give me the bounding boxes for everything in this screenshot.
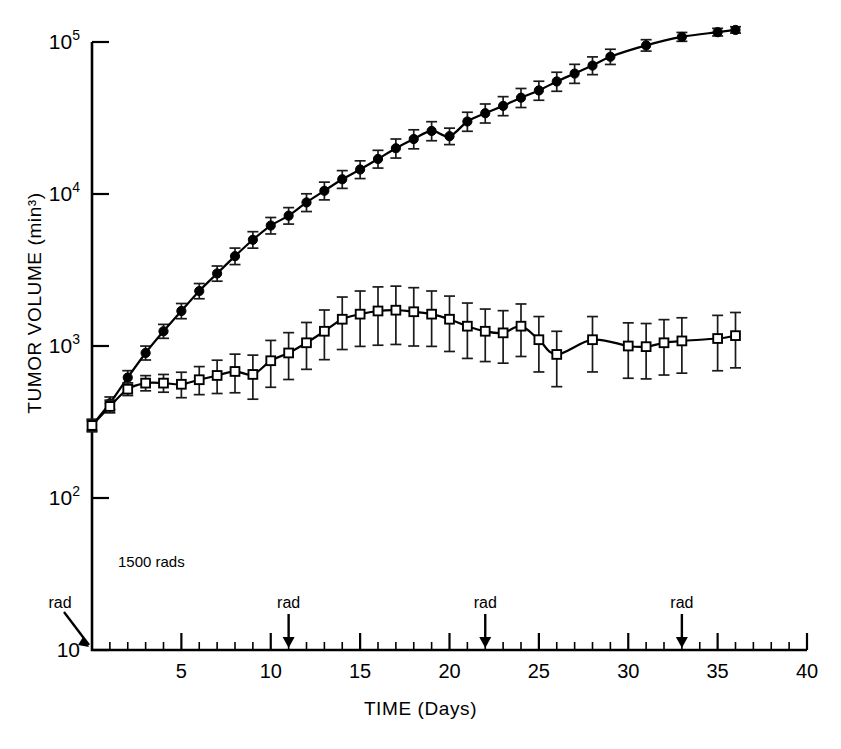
svg-text:103: 103 <box>49 331 80 357</box>
svg-text:35: 35 <box>707 660 729 682</box>
x-axis-ticks: 510152025303540 <box>92 633 818 682</box>
svg-text:rad: rad <box>474 594 497 611</box>
figure-panel: TUMOR VOLUME (min³) TIME (Days) 10102103… <box>0 0 841 749</box>
rad-marker-22: rad <box>474 594 497 648</box>
svg-text:5: 5 <box>176 660 187 682</box>
svg-text:rad: rad <box>48 594 71 611</box>
svg-text:30: 30 <box>617 660 639 682</box>
tumor-growth-chart: 10102103104105510152025303540radradradra… <box>0 0 841 749</box>
svg-text:105: 105 <box>49 27 80 53</box>
data-markers <box>87 25 740 430</box>
rad-marker-11: rad <box>277 594 300 648</box>
caption-sliver <box>0 744 841 749</box>
svg-text:10: 10 <box>260 660 282 682</box>
svg-text:rad: rad <box>277 594 300 611</box>
error-bars <box>87 27 742 432</box>
svg-text:20: 20 <box>438 660 460 682</box>
svg-text:25: 25 <box>528 660 550 682</box>
svg-text:104: 104 <box>49 179 80 205</box>
rad-marker-33: rad <box>670 594 693 648</box>
y-axis-ticks: 10102103104105 <box>49 27 109 661</box>
series-curve <box>92 30 736 426</box>
series-1 <box>87 25 742 431</box>
svg-text:rad: rad <box>670 594 693 611</box>
svg-text:10: 10 <box>57 638 80 661</box>
svg-text:15: 15 <box>349 660 371 682</box>
svg-text:40: 40 <box>796 660 818 682</box>
dose-annotation: 1500 rads <box>118 553 185 570</box>
rad-markers: radradradrad <box>48 594 693 648</box>
svg-text:102: 102 <box>49 483 80 509</box>
